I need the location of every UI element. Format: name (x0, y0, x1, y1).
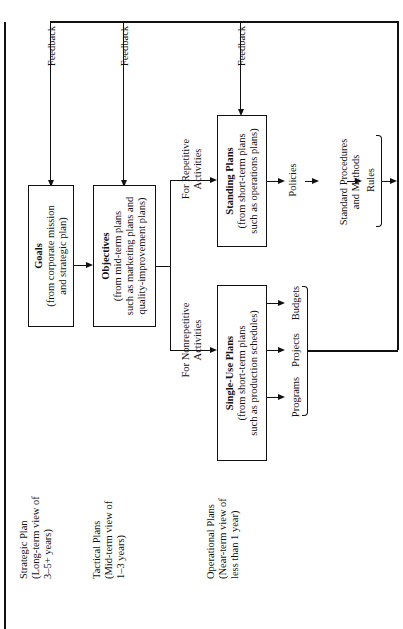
level-tactical: Tactical Plans (Mid-term view of 1–3 yea… (91, 469, 131, 579)
objectives-line3: quality-improvement plans) (136, 185, 148, 327)
level-tactical-detail: (Mid-term view of (103, 469, 115, 579)
single-use-plans-text: Single-Use Plans (from short-term plans … (224, 285, 260, 461)
feedback-label-1: Feedback (46, 16, 58, 76)
repetitive-line1: For Repetitive (180, 129, 192, 209)
objectives-title: Objectives (100, 232, 111, 279)
feedback-right-line (397, 21, 399, 350)
level-tactical-title: Tactical Plans (91, 469, 103, 579)
objectives-line2: such as marketing plans and (124, 185, 136, 327)
goals-line1: (from corporate mission (45, 185, 57, 327)
feedback-top-line (50, 21, 399, 23)
projects-label: Projects (290, 325, 302, 375)
arrow-to-rules (355, 178, 362, 184)
goals-line2: and strategic plan) (57, 185, 69, 327)
arrow-to-projects (278, 347, 285, 353)
level-operational-title: Operational Plans (205, 469, 217, 579)
arrow-to-single-use-box (210, 347, 217, 353)
single-use-line1: (from short-term plans (236, 285, 248, 461)
level-strategic-detail2: 3–5+ years) (42, 469, 54, 579)
level-tactical-detail2: 1–3 years) (115, 469, 127, 579)
single-use-brace-to-right-line (308, 350, 398, 352)
budgets-label: Budgets (290, 278, 302, 328)
level-strategic-title: Strategic Plan (18, 469, 30, 579)
level-strategic: Strategic Plan (Long-term view of 3–5+ y… (18, 469, 58, 579)
policies-label: Policies (287, 155, 299, 205)
arrow-to-objectives-box (86, 262, 93, 268)
arrow-to-standing-box (210, 177, 217, 183)
objectives-branch-stem (156, 266, 170, 267)
arrow-to-procedures (312, 178, 319, 184)
level-operational-detail2: less than 1 year) (229, 469, 241, 579)
standing-plans-text: Standing Plans (from short-term plans su… (224, 115, 260, 247)
nonrepetitive-line2: Activities (192, 295, 204, 385)
arrow-to-programs (278, 394, 285, 400)
nonrepetitive-label: For Nonrepetitive Activities (180, 295, 204, 385)
repetitive-label: For Repetitive Activities (180, 129, 204, 209)
nonrepetitive-line1: For Nonrepetitive (180, 295, 192, 385)
single-use-title: Single-Use Plans (224, 336, 235, 410)
left-border-line (4, 22, 6, 629)
arrow-to-policies (278, 178, 285, 184)
standing-line1: (from short-term plans (236, 115, 248, 247)
objectives-text: Objectives (from mid-term plans such as … (100, 185, 148, 327)
standing-title: Standing Plans (224, 147, 235, 214)
level-strategic-detail: (Long-term view of (30, 469, 42, 579)
standing-line2: such as operations plans) (248, 115, 260, 247)
programs-label: Programs (290, 372, 302, 422)
objectives-line1: (from mid-term plans (112, 185, 124, 327)
goals-title: Goals (33, 243, 44, 269)
feedback-label-2: Feedback (119, 16, 131, 76)
brace-to-right-line (382, 181, 390, 182)
branch-vertical (170, 180, 171, 351)
planning-hierarchy-diagram: Feedback Feedback Feedback Strategic Pla… (0, 0, 403, 629)
arrow-to-feedback-line (390, 178, 397, 184)
arrow-to-budgets (278, 300, 285, 306)
level-operational: Operational Plans (Near-term view of les… (205, 469, 245, 579)
repetitive-line2: Activities (192, 129, 204, 209)
feedback-label-3: Feedback (236, 16, 248, 76)
level-operational-detail: (Near-term view of (217, 469, 229, 579)
goals-text: Goals (from corporate mission and strate… (33, 185, 69, 327)
single-use-line2: such as production schedules) (248, 285, 260, 461)
